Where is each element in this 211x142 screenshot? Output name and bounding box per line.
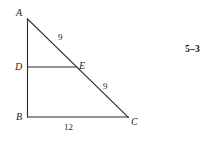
measure-label-bc: 12	[64, 123, 73, 132]
measure-label-ec: 9	[103, 82, 108, 91]
vertex-label-d: D	[15, 62, 22, 72]
vertex-label-b: B	[16, 112, 22, 122]
vertex-label-a: A	[16, 8, 22, 18]
triangle-diagram	[0, 0, 211, 142]
measure-label-ae: 9	[58, 33, 63, 42]
side-AC	[28, 19, 129, 118]
figure-number: 5–3	[185, 45, 200, 55]
figure-page: A D B E C 9 9 12 5–3	[0, 0, 211, 142]
vertex-label-c: C	[131, 117, 138, 127]
vertex-label-e: E	[79, 61, 85, 71]
